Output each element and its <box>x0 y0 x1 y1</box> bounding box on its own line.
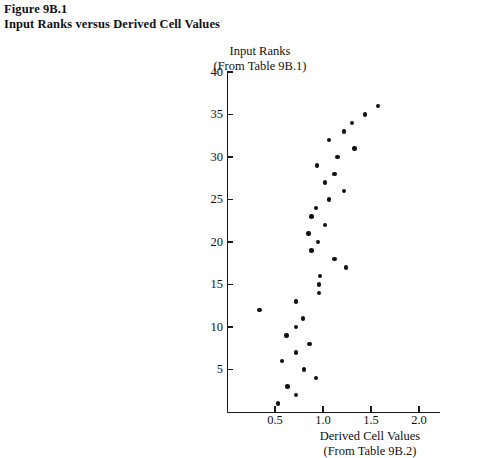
data-point <box>318 274 322 278</box>
data-point <box>327 138 331 142</box>
data-point <box>276 401 280 405</box>
data-point <box>316 240 320 244</box>
data-point <box>294 350 298 354</box>
data-point <box>342 189 346 193</box>
x-axis-title-line2: (From Table 9B.2) <box>250 444 489 458</box>
data-point <box>342 129 346 133</box>
data-point <box>332 172 336 176</box>
data-point <box>309 214 313 218</box>
data-point <box>314 206 318 210</box>
data-point <box>350 121 354 125</box>
data-point <box>327 197 331 201</box>
x-axis-title-line1: Derived Cell Values <box>250 429 489 444</box>
data-point <box>352 146 356 150</box>
data-point <box>294 325 298 329</box>
data-point <box>301 316 305 320</box>
data-point <box>309 248 313 252</box>
data-point <box>323 180 327 184</box>
data-point <box>335 155 339 159</box>
data-point <box>317 291 321 295</box>
data-point <box>284 333 288 337</box>
data-point <box>294 393 298 397</box>
data-point <box>332 257 336 261</box>
data-point <box>257 308 261 312</box>
data-point <box>307 342 311 346</box>
data-point <box>302 367 306 371</box>
data-point <box>376 104 380 108</box>
data-point <box>285 384 289 388</box>
data-point <box>323 223 327 227</box>
data-point <box>363 112 367 116</box>
data-point <box>315 163 319 167</box>
data-point <box>314 376 318 380</box>
data-point <box>294 299 298 303</box>
data-point <box>306 231 310 235</box>
x-axis-title: Derived Cell Values (From Table 9B.2) <box>250 429 489 458</box>
data-point <box>280 359 284 363</box>
data-point <box>317 282 321 286</box>
data-point <box>344 265 348 269</box>
